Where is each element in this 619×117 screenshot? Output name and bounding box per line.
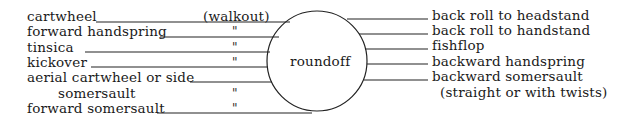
left-item-forward-somersault: forward somersault [27,101,165,115]
right-item-back-roll-headstand: back roll to headstand [432,8,590,22]
left-item-aerial: aerial cartwheel or side [27,70,194,84]
right-item-fishflop: fishflop [432,38,485,52]
ditto-mark: " [232,57,238,69]
left-item-cartwheel: cartwheel [27,9,97,23]
right-item-backward-somersault-cont: (straight or with twists) [440,85,608,99]
left-item-aerial-cont: somersault [58,86,136,100]
right-item-backward-handspring: backward handspring [432,54,585,68]
left-note-walkout: (walkout) [203,9,270,23]
center-label-roundoff: roundoff [290,54,350,68]
left-item-tinsica: tinsica [27,40,74,54]
ditto-mark: " [232,26,238,38]
left-item-forward-handspring: forward handspring [27,24,167,38]
right-item-back-roll-handstand: back roll to handstand [432,23,590,37]
ditto-mark: " [232,42,238,54]
ditto-mark: " [232,88,238,100]
right-item-backward-somersault: backward somersault [432,69,583,83]
ditto-mark: " [232,103,238,115]
left-item-kickover: kickover [27,55,87,69]
